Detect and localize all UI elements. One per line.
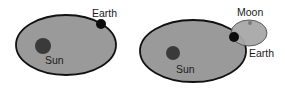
earth-label: Earth — [249, 47, 274, 59]
right-diagram: Moon Earth Sun — [140, 6, 274, 82]
earth-icon — [229, 32, 239, 42]
left-diagram: Earth Sun — [16, 7, 117, 75]
moon-icon — [248, 21, 252, 25]
sun-icon — [166, 46, 180, 60]
moon-label: Moon — [237, 6, 263, 18]
sun-icon — [35, 38, 51, 54]
sun-label: Sun — [176, 63, 195, 75]
earth-icon — [96, 19, 106, 29]
sun-label: Sun — [45, 54, 64, 66]
diagram-canvas: Earth Sun Moon Earth Sun — [0, 0, 285, 89]
earth-label: Earth — [92, 7, 117, 19]
